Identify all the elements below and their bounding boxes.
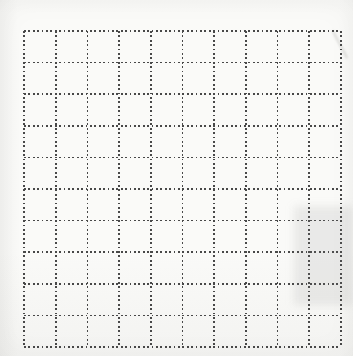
grid-line-vertical bbox=[182, 31, 184, 347]
grid-line-vertical bbox=[340, 31, 342, 347]
grid-line-vertical bbox=[23, 31, 25, 347]
grid-line-vertical bbox=[87, 31, 89, 347]
grid-line-vertical bbox=[245, 31, 247, 347]
dotted-grid bbox=[0, 0, 353, 356]
scanned-grid-paper bbox=[0, 0, 353, 356]
grid-line-vertical bbox=[277, 31, 279, 347]
grid-line-vertical bbox=[118, 31, 120, 347]
grid-line-vertical bbox=[308, 31, 310, 347]
grid-line-vertical bbox=[55, 31, 57, 347]
grid-line-vertical bbox=[213, 31, 215, 347]
grid-line-vertical bbox=[150, 31, 152, 347]
